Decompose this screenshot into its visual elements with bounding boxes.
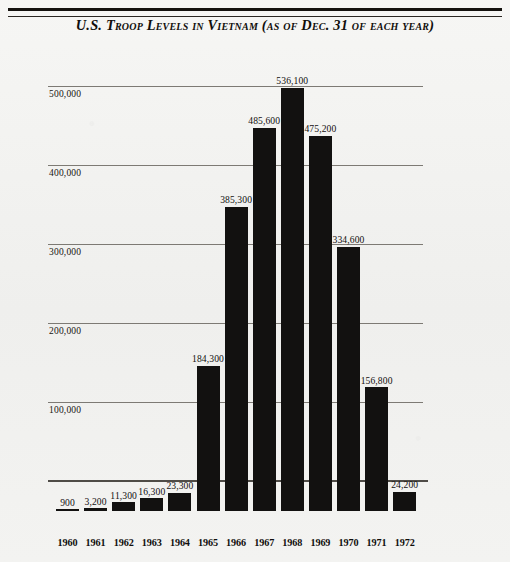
bar-rect [337, 247, 360, 511]
bar-value-label: 3,200 [85, 496, 107, 507]
x-tick-label-1972: 1972 [388, 537, 422, 548]
chart-title: U.S. Troop Levels in Vietnam (as of Dec.… [0, 17, 510, 34]
bar-value-label: 385,300 [220, 194, 252, 205]
bar-value-label: 485,600 [248, 115, 280, 126]
bar-1962: 11,300 [112, 484, 135, 511]
bar-1960: 900 [56, 491, 79, 511]
bar-rect [84, 508, 107, 511]
bar-value-label: 11,300 [110, 490, 137, 501]
bar-rect [309, 136, 332, 511]
bar-value-label: 184,300 [192, 353, 224, 364]
bar-rect [140, 498, 163, 511]
bar-1961: 3,200 [84, 490, 107, 511]
x-axis-labels-group: 1960196119621963196419651966196719681969… [56, 537, 428, 553]
bar-rect [365, 387, 388, 511]
bar-1970: 334,600 [337, 229, 360, 511]
bar-rect [253, 128, 276, 511]
bars-group: 9003,20011,30016,30023,300184,300385,300… [56, 69, 428, 511]
bar-value-label: 156,800 [361, 375, 393, 386]
bar-1972: 24,200 [393, 474, 416, 511]
bar-value-label: 23,300 [166, 480, 193, 491]
vietnam-troop-levels-chart: U.S. Troop Levels in Vietnam (as of Dec.… [0, 0, 510, 562]
bar-rect [112, 502, 135, 511]
bar-1971: 156,800 [365, 369, 388, 511]
bar-rect [168, 493, 191, 511]
top-rule-divider [8, 8, 502, 17]
bar-1964: 23,300 [168, 475, 191, 511]
bar-value-label: 900 [60, 497, 75, 508]
bar-value-label: 475,200 [304, 123, 336, 134]
bar-1963: 16,300 [140, 480, 163, 511]
bar-value-label: 334,600 [333, 234, 365, 245]
bar-rect [56, 509, 79, 511]
bar-1969: 475,200 [309, 118, 332, 511]
bar-rect [197, 366, 220, 511]
bar-rect [225, 207, 248, 511]
bar-value-label: 24,200 [391, 479, 418, 490]
bar-rect [281, 88, 304, 511]
bar-1968: 536,100 [281, 70, 304, 511]
bar-1965: 184,300 [197, 348, 220, 511]
bar-1966: 385,300 [225, 189, 248, 511]
bar-rect [393, 492, 416, 511]
bar-value-label: 16,300 [138, 486, 165, 497]
bar-value-label: 536,100 [276, 75, 308, 86]
bar-1967: 485,600 [253, 110, 276, 511]
